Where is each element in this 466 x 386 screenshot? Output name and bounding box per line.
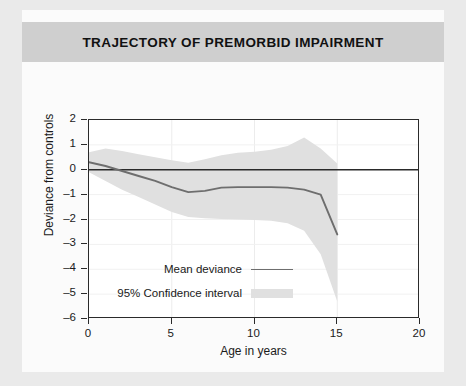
legend-item-mean-deviance: Mean deviance xyxy=(90,261,293,277)
x-tick-label: 0 xyxy=(73,327,103,339)
chart-title-band: TRAJECTORY OF PREMORBID IMPAIRMENT xyxy=(22,22,444,62)
y-tick-mark xyxy=(81,194,87,195)
x-tick-mark xyxy=(336,318,337,324)
y-tick-mark xyxy=(81,169,87,170)
y-tick-mark xyxy=(81,318,87,319)
x-tick-mark xyxy=(419,318,420,324)
y-tick-mark xyxy=(81,268,87,269)
y-tick-label: –1 xyxy=(50,188,76,199)
x-tick-label: 20 xyxy=(404,327,434,339)
x-tick-mark xyxy=(171,318,172,324)
x-tick-label: 5 xyxy=(156,327,186,339)
y-tick-label: –5 xyxy=(50,287,76,298)
y-tick-mark xyxy=(81,219,87,220)
y-tick-label: –6 xyxy=(50,312,76,323)
y-tick-label: –4 xyxy=(50,262,76,273)
legend-swatch-band xyxy=(251,289,293,298)
y-tick-mark xyxy=(81,243,87,244)
x-tick-mark xyxy=(88,318,89,324)
x-tick-label: 10 xyxy=(239,327,269,339)
y-tick-label: –3 xyxy=(50,237,76,248)
y-tick-label: 2 xyxy=(50,113,76,124)
y-tick-label: 1 xyxy=(50,138,76,149)
legend-label-mean-deviance: Mean deviance xyxy=(90,263,242,275)
y-tick-mark xyxy=(81,119,87,120)
x-axis-label: Age in years xyxy=(88,344,419,358)
y-tick-mark xyxy=(81,293,87,294)
legend-label-confidence-interval: 95% Confidence interval xyxy=(90,287,242,299)
y-tick-mark xyxy=(81,144,87,145)
legend-item-confidence-interval: 95% Confidence interval xyxy=(90,285,293,301)
y-tick-label: –2 xyxy=(50,213,76,224)
chart-title: TRAJECTORY OF PREMORBID IMPAIRMENT xyxy=(82,35,383,50)
y-tick-label: 0 xyxy=(50,163,76,174)
x-tick-label: 15 xyxy=(321,327,351,339)
legend-swatch-line xyxy=(251,269,293,270)
chart-figure: TRAJECTORY OF PREMORBID IMPAIRMENT Devia… xyxy=(0,0,466,386)
x-tick-mark xyxy=(254,318,255,324)
